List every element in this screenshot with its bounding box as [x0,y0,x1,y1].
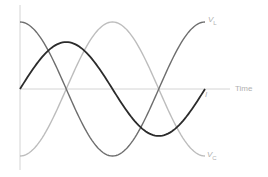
current-label: I [205,90,207,99]
vl-label-sub: L [213,20,216,26]
vc-label-sub: C [212,155,216,161]
time-label: Time [235,84,252,93]
vc-label: VC [207,150,217,161]
phase-chart [0,0,268,177]
vl-label: VL [208,15,217,26]
